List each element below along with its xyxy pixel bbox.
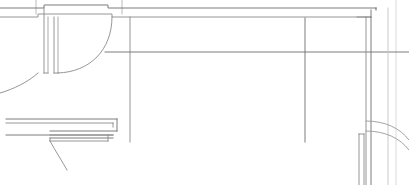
floor-plan-canvas [0,0,409,185]
drawing-background [0,0,409,185]
floor-plan-drawing [0,0,409,185]
